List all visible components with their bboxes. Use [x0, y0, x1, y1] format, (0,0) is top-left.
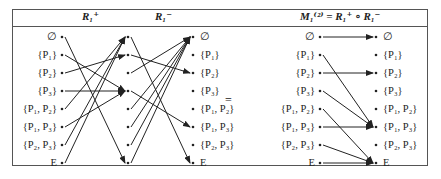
- node-dot: [61, 108, 64, 111]
- node-dot: [319, 90, 322, 93]
- relation-arrow: [131, 55, 190, 73]
- node-dot: [319, 108, 322, 111]
- node-dot: [375, 90, 378, 93]
- relation-arrow: [323, 91, 373, 127]
- node-dot: [319, 162, 322, 165]
- node-dot: [319, 126, 322, 129]
- node-dot: [319, 36, 322, 39]
- node-dot: [127, 144, 130, 147]
- node-dot: [192, 72, 195, 75]
- relation-arrow: [65, 37, 125, 109]
- node-dot: [375, 126, 378, 129]
- relation-arrow: [323, 55, 373, 127]
- node-dot: [127, 126, 130, 129]
- node-dot: [192, 144, 195, 147]
- node-dot: [127, 108, 130, 111]
- relation-arrow: [323, 109, 373, 163]
- node-dot: [192, 36, 195, 39]
- node-dot: [127, 90, 130, 93]
- node-dot: [127, 54, 130, 57]
- node-dot: [127, 36, 130, 39]
- node-dot: [319, 144, 322, 147]
- node-dot: [319, 54, 322, 57]
- relation-arrow: [131, 37, 190, 127]
- node-dot: [319, 72, 322, 75]
- node-dot: [127, 72, 130, 75]
- node-dot: [61, 90, 64, 93]
- relation-arrow: [65, 55, 125, 73]
- relation-arrow: [131, 37, 190, 109]
- node-dot: [192, 54, 195, 57]
- relation-arrow: [323, 145, 373, 163]
- node-dot: [375, 36, 378, 39]
- node-dot: [192, 126, 195, 129]
- node-dot: [192, 162, 195, 165]
- node-dot: [61, 162, 64, 165]
- node-dot: [375, 72, 378, 75]
- node-dot: [375, 162, 378, 165]
- node-dot: [192, 108, 195, 111]
- node-dot: [61, 72, 64, 75]
- node-dot: [61, 54, 64, 57]
- node-dot: [375, 54, 378, 57]
- relation-arrow: [65, 91, 125, 127]
- node-dot: [375, 108, 378, 111]
- node-dot: [61, 36, 64, 39]
- node-dot: [61, 144, 64, 147]
- relation-arrow: [131, 91, 190, 127]
- node-dot: [192, 90, 195, 93]
- node-dot: [375, 144, 378, 147]
- node-dot: [61, 126, 64, 129]
- node-dot: [127, 162, 130, 165]
- relation-arrow: [131, 37, 190, 145]
- relation-arrows: [0, 0, 441, 179]
